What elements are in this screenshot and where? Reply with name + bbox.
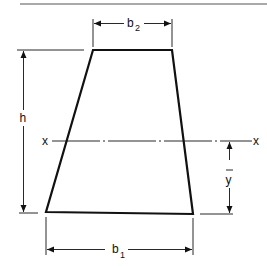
b2-subscript: 2	[135, 23, 140, 33]
b1-subscript: 1	[120, 250, 125, 260]
b1-label: b	[112, 242, 119, 256]
h-label: h	[20, 111, 27, 125]
b1-dimension: b 1	[46, 217, 193, 260]
h-dimension: h	[17, 50, 84, 213]
b2-dimension: b 2	[93, 16, 172, 47]
trapezoid-diagram: b 2 h x x y b 1	[0, 0, 267, 267]
ybar-dimension: y	[200, 142, 233, 214]
axis-label-right: x	[253, 134, 259, 148]
axis-label-left: x	[42, 134, 48, 148]
centroidal-axis: x x	[42, 134, 259, 148]
trapezoid-shape	[46, 50, 193, 214]
ybar-label: y	[226, 173, 232, 187]
b2-label: b	[127, 16, 134, 30]
